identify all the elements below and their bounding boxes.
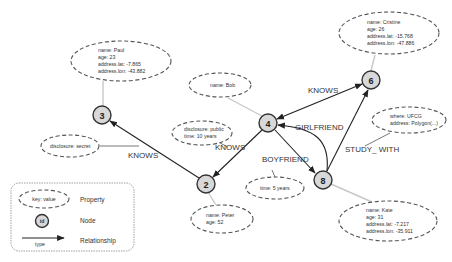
node-2[interactable]: 2 [197, 175, 215, 193]
prop-lat: address.lat: -7.217 [366, 221, 409, 227]
edge-label-knows-4-2: KNOWS [215, 143, 245, 152]
prop-address: address: Polygon(...) [390, 120, 438, 126]
prop-lon: address.lon: -47.886 [367, 40, 414, 46]
prop-time: time: 10 years [184, 133, 217, 139]
node-id: 2 [203, 180, 208, 190]
legend-property-label: Property [80, 196, 105, 204]
node-id: 3 [99, 111, 104, 121]
node-3[interactable]: 3 [93, 106, 111, 124]
node-id: 6 [368, 76, 373, 86]
connector-kate [331, 184, 372, 202]
legend-relationship-label: Relationship [80, 237, 116, 245]
property-bob: name: Bob [189, 73, 251, 97]
prop-disclosure: disclosure: secret [50, 143, 91, 149]
node-4[interactable]: 4 [259, 114, 277, 132]
node-id: 8 [320, 176, 325, 186]
prop-lat: address.lat: -7.865 [98, 61, 141, 67]
property-time-5-years: time: 5 years [246, 177, 304, 199]
legend-relationship-sample-text: type [35, 241, 45, 247]
legend-node-label: Node [80, 217, 96, 224]
legend-property-sample-text: key: value [32, 196, 55, 202]
prop-name: name: Kate [366, 207, 393, 213]
edge-label-knows-6-4: KNOWS [308, 86, 338, 95]
legend: key: value Property id Node type Relatio… [11, 183, 134, 251]
node-id: 4 [265, 119, 270, 129]
property-disclosure-public: disclosure: public time: 10 years [172, 121, 232, 145]
prop-age: age: 26 [367, 26, 384, 32]
edge-label-boyfriend: BOYFRIEND [262, 155, 309, 164]
property-cristine: name: Cristine age: 26 address.lat: -15.… [339, 12, 439, 54]
property-graph-diagram: name: Paul age: 23 address.lat: -7.865 a… [0, 0, 452, 262]
prop-lon: address.lon: -35.911 [366, 228, 413, 234]
edge-label-study-with: STUDY_ WITH [345, 145, 399, 154]
node-8[interactable]: 8 [314, 171, 332, 189]
connector-cristine [371, 55, 375, 71]
prop-name: name: Peter [206, 212, 235, 218]
connector-time-5-years [272, 170, 275, 177]
connector-peter [208, 192, 216, 205]
prop-name: name: Bob [210, 82, 235, 88]
property-peter: name: Peter age: 52 [191, 205, 253, 233]
prop-name: name: Paul [98, 47, 124, 53]
legend-node-sample-text: id [40, 218, 45, 224]
prop-name: name: Cristine [367, 19, 401, 25]
edge-label-knows-2-3: KNOWS [128, 151, 158, 160]
prop-age: age: 23 [98, 54, 115, 60]
prop-disclosure: disclosure: public [184, 126, 224, 132]
edge-label-girlfriend: GIRLFRIEND [295, 123, 344, 132]
prop-age: age: 31 [366, 214, 383, 220]
prop-lat: address.lat: -15.768 [367, 33, 413, 39]
prop-time: time: 5 years [260, 185, 290, 191]
property-paul: name: Paul age: 23 address.lat: -7.865 a… [71, 41, 171, 81]
prop-age: age: 52 [206, 219, 223, 225]
node-6[interactable]: 6 [362, 71, 380, 89]
property-kate: name: Kate age: 31 address.lat: -7.217 a… [339, 201, 437, 241]
connector-bob [228, 98, 262, 116]
edge-4-boyfriend-8 [275, 130, 315, 173]
prop-lon: address.lon: -43.882 [98, 68, 145, 74]
prop-where: where: UFCG [390, 113, 422, 119]
property-disclosure-secret: disclosure: secret [41, 135, 99, 157]
property-ufcg: where: UFCG address: Polygon(...) [372, 107, 446, 133]
